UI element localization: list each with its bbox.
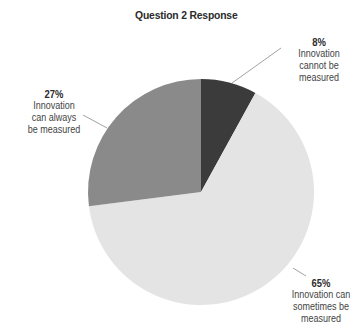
label-pct: 27% (18, 88, 90, 100)
leader-line-8 (232, 48, 281, 83)
leader-line-65 (293, 268, 306, 276)
label-pct: 65% (281, 277, 362, 289)
label-pct: 8% (287, 36, 352, 48)
label-text: Innovation cannot be measured (287, 48, 352, 84)
label-text: Innovation can sometimes be measured (281, 289, 362, 325)
label-always-measured: 27% Innovation can always be measured (18, 88, 90, 136)
label-sometimes-measured: 65% Innovation can sometimes be measured (281, 277, 362, 325)
label-cannot-measured: 8% Innovation cannot be measured (287, 36, 352, 84)
label-text: Innovation can always be measured (18, 100, 90, 136)
pie-slices (88, 79, 314, 305)
pie-slice-27 (88, 79, 201, 206)
